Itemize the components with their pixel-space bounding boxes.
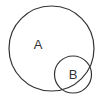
set-a-label: A: [34, 37, 43, 52]
venn-diagram: A B: [0, 0, 101, 104]
set-a-circle: [9, 6, 94, 91]
set-b-label: B: [69, 67, 78, 82]
